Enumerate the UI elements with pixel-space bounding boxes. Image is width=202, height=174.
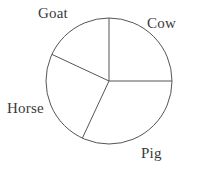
pie-slice-label-horse: Horse — [7, 101, 44, 116]
pie-slice-divider — [82, 81, 109, 138]
pie-slice-label-pig: Pig — [141, 146, 162, 161]
pie-slice-divider — [52, 54, 109, 81]
pie-chart-figure: Goat Cow Horse Pig — [0, 0, 202, 174]
pie-slice-divider-lines — [52, 18, 172, 138]
pie-slice-label-cow: Cow — [147, 16, 176, 31]
pie-slice-label-goat: Goat — [38, 6, 68, 21]
